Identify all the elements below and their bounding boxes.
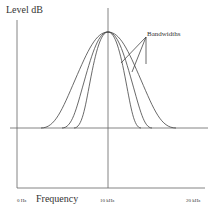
- annotation-label: Bandwidths: [147, 30, 180, 38]
- pointer-1: [121, 37, 146, 63]
- x-axis-label: Frequency: [36, 193, 78, 204]
- curve-medium: [62, 32, 152, 128]
- curve-narrow: [74, 32, 141, 128]
- pointer-2: [132, 37, 146, 72]
- bandwidth-diagram: Level dB Bandwidths 0 Hz Frequency 10 kH…: [0, 0, 219, 209]
- x-tick-0: 0 Hz: [17, 198, 27, 203]
- x-tick-2: 20 kHz: [186, 198, 201, 203]
- y-axis-label: Level dB: [6, 4, 43, 15]
- x-tick-1: 10 kHz: [100, 198, 115, 203]
- curve-wide: [41, 32, 176, 128]
- diagram-canvas: [0, 0, 219, 209]
